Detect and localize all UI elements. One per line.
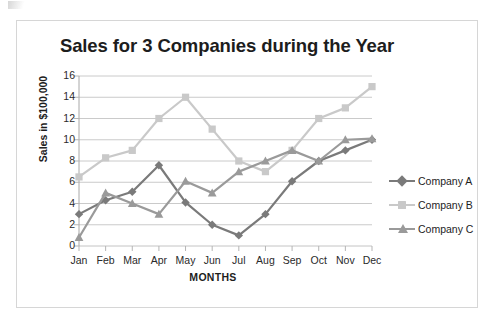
chart-frame: Sales for 3 Companies during the Year Sa… [16,20,478,308]
legend-marker-diamond-icon [396,175,407,186]
y-tick-label: 16 [49,69,75,81]
legend-label: Company B [415,199,473,211]
scan-artifact [8,1,30,9]
legend-label: Company A [415,175,472,187]
plot-area: Sales in $100,000 1614121086420JanFebMar… [17,21,479,309]
chart-legend: Company ACompany BCompany C [389,169,479,241]
y-axis-title: Sales in $100,000 [37,49,49,189]
y-tick-label: 8 [49,154,75,166]
x-axis-title: MONTHS [63,271,363,283]
legend-swatch [389,199,415,211]
legend-swatch [389,223,415,235]
legend-item-company-b[interactable]: Company B [389,193,479,217]
y-tick-label: 6 [49,175,75,187]
legend-label: Company C [415,223,473,235]
y-tick-label: 10 [49,133,75,145]
legend-item-company-c[interactable]: Company C [389,217,479,241]
x-tick-label: Dec [352,254,392,266]
legend-item-company-a[interactable]: Company A [389,169,479,193]
y-tick-label: 14 [49,90,75,102]
y-tick-label: 4 [49,197,75,209]
y-tick-label: 12 [49,112,75,124]
y-tick-label: 0 [49,239,75,251]
y-tick-label: 2 [49,218,75,230]
legend-swatch [389,175,415,187]
legend-marker-triangle-icon [398,224,408,233]
legend-marker-square-icon [398,201,406,209]
